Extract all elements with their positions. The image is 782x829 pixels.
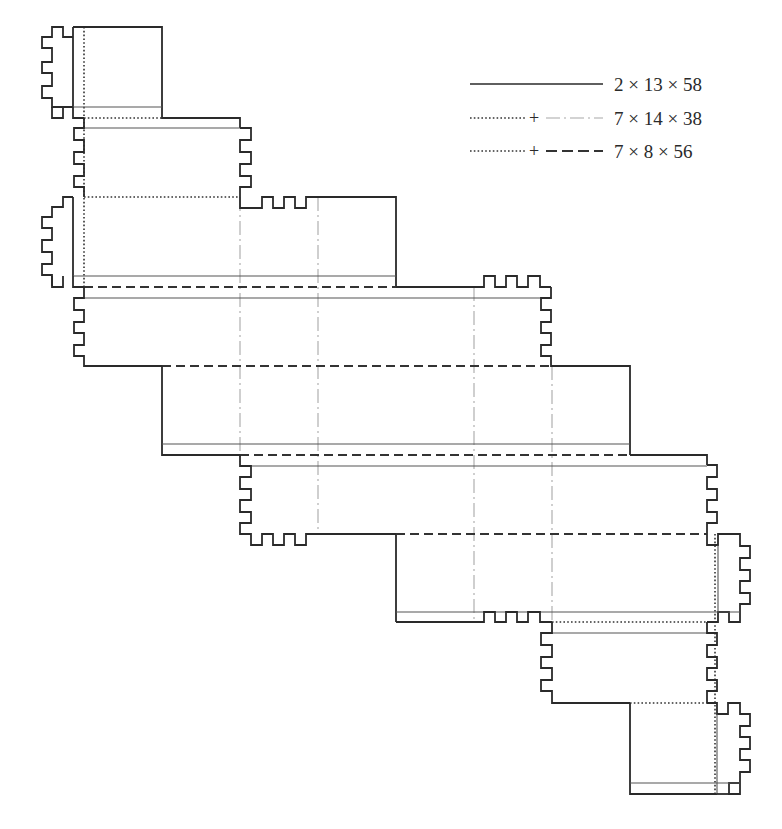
legend-item-solid: 2 × 13 × 58 bbox=[470, 74, 702, 95]
bottom-end-panel bbox=[630, 703, 750, 794]
legend-label: 7 × 8 × 56 bbox=[614, 141, 692, 162]
legend-label: 2 × 13 × 58 bbox=[614, 74, 702, 95]
third-panel bbox=[42, 197, 551, 298]
second-panel bbox=[74, 118, 251, 197]
legend-plus: + bbox=[529, 141, 539, 161]
box-net-diagram: 2 × 13 × 58 + 7 × 14 × 38 + 7 × 8 × 56 bbox=[0, 0, 782, 829]
fourth-panel bbox=[74, 287, 630, 455]
legend-item-dotted-dashdot: + 7 × 14 × 38 bbox=[470, 108, 702, 129]
top-end-panel bbox=[42, 27, 240, 128]
eighth-panel bbox=[541, 622, 717, 703]
sixth-panel bbox=[240, 455, 717, 622]
legend-item-dotted-dashed: + 7 × 8 × 56 bbox=[470, 141, 692, 162]
legend: 2 × 13 × 58 + 7 × 14 × 38 + 7 × 8 × 56 bbox=[470, 74, 702, 162]
legend-plus: + bbox=[529, 108, 539, 128]
fifth-panel bbox=[162, 366, 707, 466]
seventh-panel bbox=[396, 534, 750, 633]
legend-label: 7 × 14 × 38 bbox=[614, 108, 702, 129]
